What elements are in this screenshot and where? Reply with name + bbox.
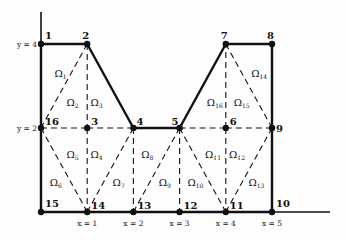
element-label: Ω9 — [159, 177, 171, 189]
node-label: 1 — [45, 30, 52, 41]
mesh-svg: 12345678910111213141516 Ω1Ω2Ω3Ω4Ω5Ω6Ω7Ω8… — [0, 0, 347, 242]
x-tick-label: x = 2 — [123, 219, 143, 228]
node-14 — [84, 209, 90, 215]
node-12 — [176, 209, 182, 215]
node-label: 14 — [91, 200, 105, 211]
node-7 — [223, 41, 229, 47]
element-label: Ω1 — [54, 68, 66, 80]
y-tick-label: y = 4 — [16, 40, 37, 49]
node-16 — [38, 125, 44, 131]
x-tick-label: x = 4 — [216, 219, 236, 228]
x-tick-label: x = 3 — [170, 219, 190, 228]
node-2 — [84, 41, 90, 47]
axes — [41, 12, 330, 212]
element-label: Ω16 — [207, 97, 223, 109]
node-label: 5 — [172, 116, 179, 127]
boundary-edge — [180, 44, 226, 128]
element-label: Ω3 — [90, 97, 102, 109]
y-tick-label: y = 2 — [16, 124, 37, 133]
node-15 — [38, 209, 44, 215]
node-label: 16 — [45, 116, 59, 127]
element-label: Ω8 — [141, 149, 153, 161]
node-label: 9 — [276, 123, 283, 134]
node-10 — [269, 209, 275, 215]
node-label: 7 — [221, 30, 228, 41]
node-label: 4 — [136, 116, 143, 127]
element-label: Ω11 — [205, 149, 221, 161]
element-label: Ω12 — [229, 149, 245, 161]
element-label: Ω7 — [113, 177, 125, 189]
node-3 — [84, 125, 90, 131]
x-tick-label: x = 1 — [77, 219, 97, 228]
node-label: 6 — [230, 116, 237, 127]
node-label: 10 — [276, 198, 290, 209]
node-label: 13 — [137, 200, 151, 211]
node-label: 11 — [230, 200, 244, 211]
node-label: 3 — [91, 116, 98, 127]
node-6 — [223, 125, 229, 131]
node-11 — [223, 209, 229, 215]
node-1 — [38, 41, 44, 47]
element-label: Ω5 — [66, 149, 78, 161]
node-label: 15 — [45, 198, 59, 209]
node-13 — [130, 209, 136, 215]
element-label: Ω13 — [248, 177, 264, 189]
node-label: 2 — [82, 30, 89, 41]
element-label: Ω15 — [234, 97, 250, 109]
element-label: Ω2 — [66, 97, 78, 109]
element-label: Ω10 — [187, 177, 203, 189]
node-8 — [269, 41, 275, 47]
element-label: Ω14 — [251, 68, 267, 80]
node-label: 12 — [184, 200, 198, 211]
element-label: Ω6 — [50, 177, 62, 189]
element-label: Ω4 — [90, 149, 102, 161]
x-tick-label: x = 5 — [262, 219, 282, 228]
node-9 — [269, 125, 275, 131]
fem-mesh-diagram: 12345678910111213141516 Ω1Ω2Ω3Ω4Ω5Ω6Ω7Ω8… — [0, 0, 347, 242]
node-label: 8 — [267, 30, 274, 41]
